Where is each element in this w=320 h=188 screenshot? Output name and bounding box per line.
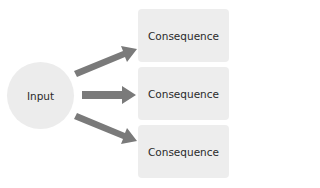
consequence-label: Consequence [148, 30, 219, 42]
consequence-label: Consequence [148, 88, 219, 100]
consequence-label: Consequence [148, 146, 219, 158]
consequence-box-2: Consequence [138, 67, 229, 120]
consequence-box-1: Consequence [138, 9, 229, 62]
consequence-box-3: Consequence [138, 125, 229, 178]
arrow-right-icon [82, 86, 136, 104]
arrow-down-icon [74, 113, 137, 144]
arrow-up-icon [74, 46, 137, 77]
